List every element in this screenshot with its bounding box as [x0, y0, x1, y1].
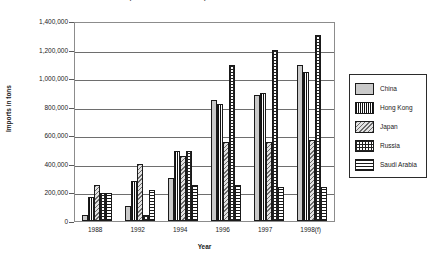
bar-saudi-arabia-1997 — [278, 187, 284, 221]
bar-chart: Imports of Recovered Paper to Asian Coun… — [0, 0, 435, 262]
legend-label: Japan — [380, 123, 398, 130]
x-axis-ticks: 198819921994199619971998(f) — [74, 226, 335, 238]
legend-label: China — [380, 85, 397, 92]
legend-item-hong-kong[interactable]: Hong Kong — [350, 98, 426, 117]
x-tick-label: 1997 — [258, 226, 272, 238]
y-tick-label: 600,000 — [20, 132, 68, 139]
plot-area — [74, 22, 335, 222]
y-tick-label: 1,400,000 — [20, 18, 68, 25]
legend-swatch — [355, 159, 374, 171]
legend-swatch — [355, 83, 374, 95]
x-axis-label: Year — [74, 243, 335, 250]
legend-item-russia[interactable]: Russia — [350, 136, 426, 155]
x-tick-label: 1994 — [173, 226, 187, 238]
bar-group — [254, 23, 284, 221]
x-tick-label: 1992 — [130, 226, 144, 238]
bar-saudi-arabia-1996 — [235, 185, 241, 221]
legend-label: Saudi Arabia — [380, 161, 417, 168]
legend-label: Hong Kong — [380, 104, 413, 111]
legend-swatch — [355, 140, 374, 152]
y-tick-label: 400,000 — [20, 161, 68, 168]
bar-japan-1992 — [137, 164, 143, 221]
bar-group — [211, 23, 241, 221]
bar-saudi-arabia-1994 — [192, 185, 198, 221]
legend-item-saudi-arabia[interactable]: Saudi Arabia — [350, 155, 426, 174]
y-tick-label: 1,200,000 — [20, 47, 68, 54]
y-tick-mark — [69, 222, 74, 223]
bar-group — [168, 23, 198, 221]
bar-group — [297, 23, 327, 221]
y-axis-label: Imports in tons — [5, 79, 12, 139]
y-tick-label: 0 — [20, 218, 68, 225]
legend-label: Russia — [380, 142, 400, 149]
bar-group — [125, 23, 155, 221]
legend-item-japan[interactable]: Japan — [350, 117, 426, 136]
bar-saudi-arabia-1992 — [149, 190, 155, 221]
bar-groups — [75, 23, 334, 221]
x-tick-label: 1998(f) — [300, 226, 321, 238]
bar-saudi-arabia-1998(f) — [321, 187, 327, 221]
y-tick-label: 800,000 — [20, 104, 68, 111]
legend-swatch — [355, 121, 374, 133]
x-tick-label: 1996 — [215, 226, 229, 238]
bar-group — [82, 23, 112, 221]
x-tick-label: 1988 — [88, 226, 102, 238]
chart-title: Imports of Recovered Paper to Asian Coun… — [60, 0, 340, 1]
legend-item-china[interactable]: China — [350, 79, 426, 98]
y-tick-label: 200,000 — [20, 189, 68, 196]
bar-saudi-arabia-1988 — [106, 193, 112, 221]
legend-swatch — [355, 102, 374, 114]
y-tick-label: 1,000,000 — [20, 75, 68, 82]
legend: ChinaHong KongJapanRussiaSaudi Arabia — [349, 74, 427, 178]
